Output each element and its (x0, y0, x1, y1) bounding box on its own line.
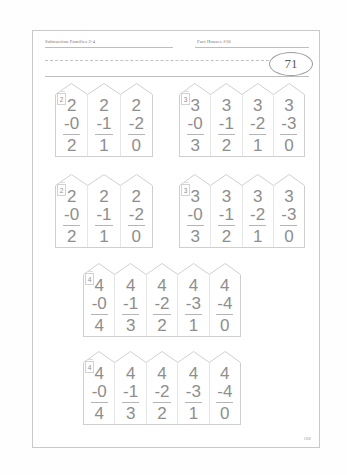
answer: 0 (284, 228, 293, 245)
answer: 0 (220, 405, 229, 422)
answer: 0 (132, 228, 141, 245)
subtrahend: -2 (249, 206, 266, 225)
fact-column: 2-11 (88, 186, 120, 247)
fact-house: 4-044-134-224-314-404 (83, 351, 241, 425)
subtrahend: -0 (63, 206, 80, 225)
minuend: 2 (132, 97, 141, 114)
answer: 1 (253, 137, 262, 154)
house-roof-icon (55, 83, 153, 95)
minuend: 4 (189, 277, 198, 294)
house-body: 2-022-112-20 (55, 95, 153, 157)
subtrahend: -2 (128, 115, 145, 134)
family-number-tag: 2 (57, 184, 66, 196)
solid-separator (45, 76, 309, 77)
minuend: 2 (99, 97, 108, 114)
family-number-tag: 4 (85, 361, 94, 373)
fact-column: 3-21 (243, 95, 274, 156)
subtrahend: -1 (218, 115, 235, 134)
minuend: 3 (284, 97, 293, 114)
fact-house: 2-022-112-202 (55, 174, 153, 248)
family-number-tag: 4 (85, 273, 94, 285)
subtrahend: -1 (218, 206, 235, 225)
answer: 2 (222, 228, 231, 245)
page-number-badge: 71 (269, 52, 313, 76)
house-body: 3-033-123-213-30 (179, 95, 305, 157)
minuend: 4 (94, 277, 103, 294)
fact-column: 4-22 (147, 363, 178, 424)
subtrahend: -0 (187, 206, 204, 225)
house-roof-icon (83, 263, 241, 275)
fact-column: 3-12 (211, 95, 242, 156)
house-body: 2-022-112-20 (55, 186, 153, 248)
subtrahend: -3 (280, 115, 297, 134)
answer: 1 (99, 137, 108, 154)
subtrahend: -1 (95, 115, 112, 134)
fact-column: 3-12 (211, 186, 242, 247)
header-rule-left (45, 47, 173, 48)
subtrahend: -0 (187, 115, 204, 134)
answer: 0 (132, 137, 141, 154)
subtrahend: -1 (95, 206, 112, 225)
minuend: 3 (253, 188, 262, 205)
minuend: 4 (94, 365, 103, 382)
fact-column: 4-31 (178, 363, 209, 424)
house-roof-icon (83, 351, 241, 363)
minuend: 3 (222, 97, 231, 114)
fact-house: 3-033-123-213-303 (179, 83, 305, 157)
subtrahend: -2 (249, 115, 266, 134)
answer: 2 (157, 405, 166, 422)
fact-column: 4-13 (115, 275, 146, 336)
fact-column: 2-11 (88, 95, 120, 156)
fact-column: 4-13 (115, 363, 146, 424)
minuend: 3 (222, 188, 231, 205)
fact-house: 2-022-112-202 (55, 83, 153, 157)
fact-column: 4-40 (210, 363, 240, 424)
scanned-page-background: Subtraction Families 2-4 Fact Houses #10… (0, 0, 347, 475)
dashed-separator (45, 60, 289, 61)
minuend: 2 (67, 188, 76, 205)
minuend: 4 (220, 277, 229, 294)
answer: 3 (190, 228, 199, 245)
minuend: 3 (253, 97, 262, 114)
answer: 3 (126, 405, 135, 422)
answer: 3 (126, 317, 135, 334)
answer: 0 (220, 317, 229, 334)
minuend: 2 (99, 188, 108, 205)
answer: 4 (94, 405, 103, 422)
family-number-tag: 3 (181, 93, 190, 105)
subtrahend: -3 (185, 383, 202, 402)
minuend: 4 (157, 365, 166, 382)
fact-column: 4-40 (210, 275, 240, 336)
fact-column: 3-30 (274, 186, 304, 247)
answer: 2 (157, 317, 166, 334)
minuend: 4 (189, 365, 198, 382)
fact-column: 2-20 (121, 95, 152, 156)
fact-column: 3-30 (274, 95, 304, 156)
answer: 2 (222, 137, 231, 154)
minuend: 4 (126, 277, 135, 294)
house-body: 4-044-134-224-314-40 (83, 275, 241, 337)
page-number-value: 71 (285, 57, 298, 71)
subtrahend: -3 (280, 206, 297, 225)
answer: 1 (253, 228, 262, 245)
house-body: 4-044-134-224-314-40 (83, 363, 241, 425)
subtrahend: -0 (91, 295, 108, 314)
worksheet-page: Subtraction Families 2-4 Fact Houses #10… (32, 30, 320, 448)
fact-house: 4-044-134-224-314-404 (83, 263, 241, 337)
subtrahend: -4 (216, 295, 233, 314)
fact-column: 4-22 (147, 275, 178, 336)
answer: 4 (94, 317, 103, 334)
subtrahend: -2 (153, 383, 170, 402)
minuend: 4 (126, 365, 135, 382)
minuend: 4 (157, 277, 166, 294)
fact-column: 2-20 (121, 186, 152, 247)
house-roof-icon (55, 174, 153, 186)
subtrahend: -0 (63, 115, 80, 134)
answer: 1 (189, 317, 198, 334)
answer: 1 (189, 405, 198, 422)
house-roof-icon (179, 174, 305, 186)
minuend: 3 (190, 188, 199, 205)
fact-column: 4-31 (178, 275, 209, 336)
fact-column: 3-21 (243, 186, 274, 247)
house-body: 3-033-123-213-30 (179, 186, 305, 248)
